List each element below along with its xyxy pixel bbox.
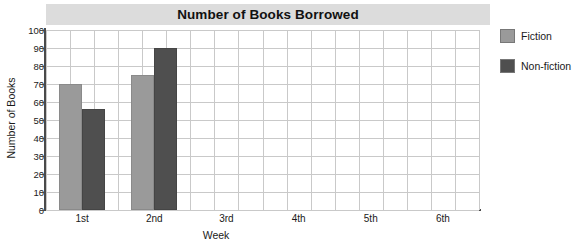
x-tick-label-1st: 1st — [62, 213, 102, 224]
bar-non-fiction-week-2nd — [154, 48, 177, 210]
x-tick-label-2nd: 2nd — [134, 213, 174, 224]
legend-item-fiction: Fiction — [500, 28, 586, 44]
x-tick-label-5th: 5th — [351, 213, 391, 224]
gridlines — [46, 30, 479, 210]
gridline-vertical — [383, 30, 384, 210]
plot-area — [46, 30, 479, 210]
legend-swatch-fiction — [500, 29, 515, 43]
x-tick-label-4th: 4th — [279, 213, 319, 224]
y-axis: Number of Books 0102030405060708090100 — [0, 0, 44, 249]
x-axis-title: Week — [46, 229, 386, 241]
chart-title: Number of Books Borrowed — [46, 4, 490, 25]
gridline-vertical — [190, 30, 191, 210]
gridline-vertical — [335, 30, 336, 210]
legend-label-fiction: Fiction — [521, 28, 552, 44]
gridline-horizontal — [46, 210, 479, 211]
legend-item-non-fiction: Non-fiction — [500, 58, 586, 74]
bar-fiction-week-2nd — [131, 75, 154, 210]
legend-swatch-non-fiction — [500, 59, 515, 73]
gridline-vertical — [407, 30, 408, 210]
chart-legend: Fiction Non-fiction — [500, 28, 586, 88]
chart-figure: Number of Books Borrowed Number of Books… — [0, 0, 588, 249]
x-tick-label-3rd: 3rd — [206, 213, 246, 224]
gridline-vertical — [431, 30, 432, 210]
gridline-vertical — [311, 30, 312, 210]
legend-label-non-fiction: Non-fiction — [521, 58, 571, 74]
gridline-vertical — [238, 30, 239, 210]
gridline-vertical — [118, 30, 119, 210]
gridline-vertical — [479, 30, 480, 210]
gridline-vertical — [359, 30, 360, 210]
gridline-vertical — [455, 30, 456, 210]
y-axis-title: Number of Books — [5, 58, 17, 178]
chart-title-banner: Number of Books Borrowed — [46, 4, 490, 25]
gridline-vertical — [263, 30, 264, 210]
gridline-vertical — [46, 30, 47, 210]
gridline-vertical — [214, 30, 215, 210]
bar-fiction-week-1st — [59, 84, 82, 210]
x-tick-label-6th: 6th — [423, 213, 463, 224]
bar-non-fiction-week-1st — [82, 109, 105, 210]
gridline-vertical — [287, 30, 288, 210]
